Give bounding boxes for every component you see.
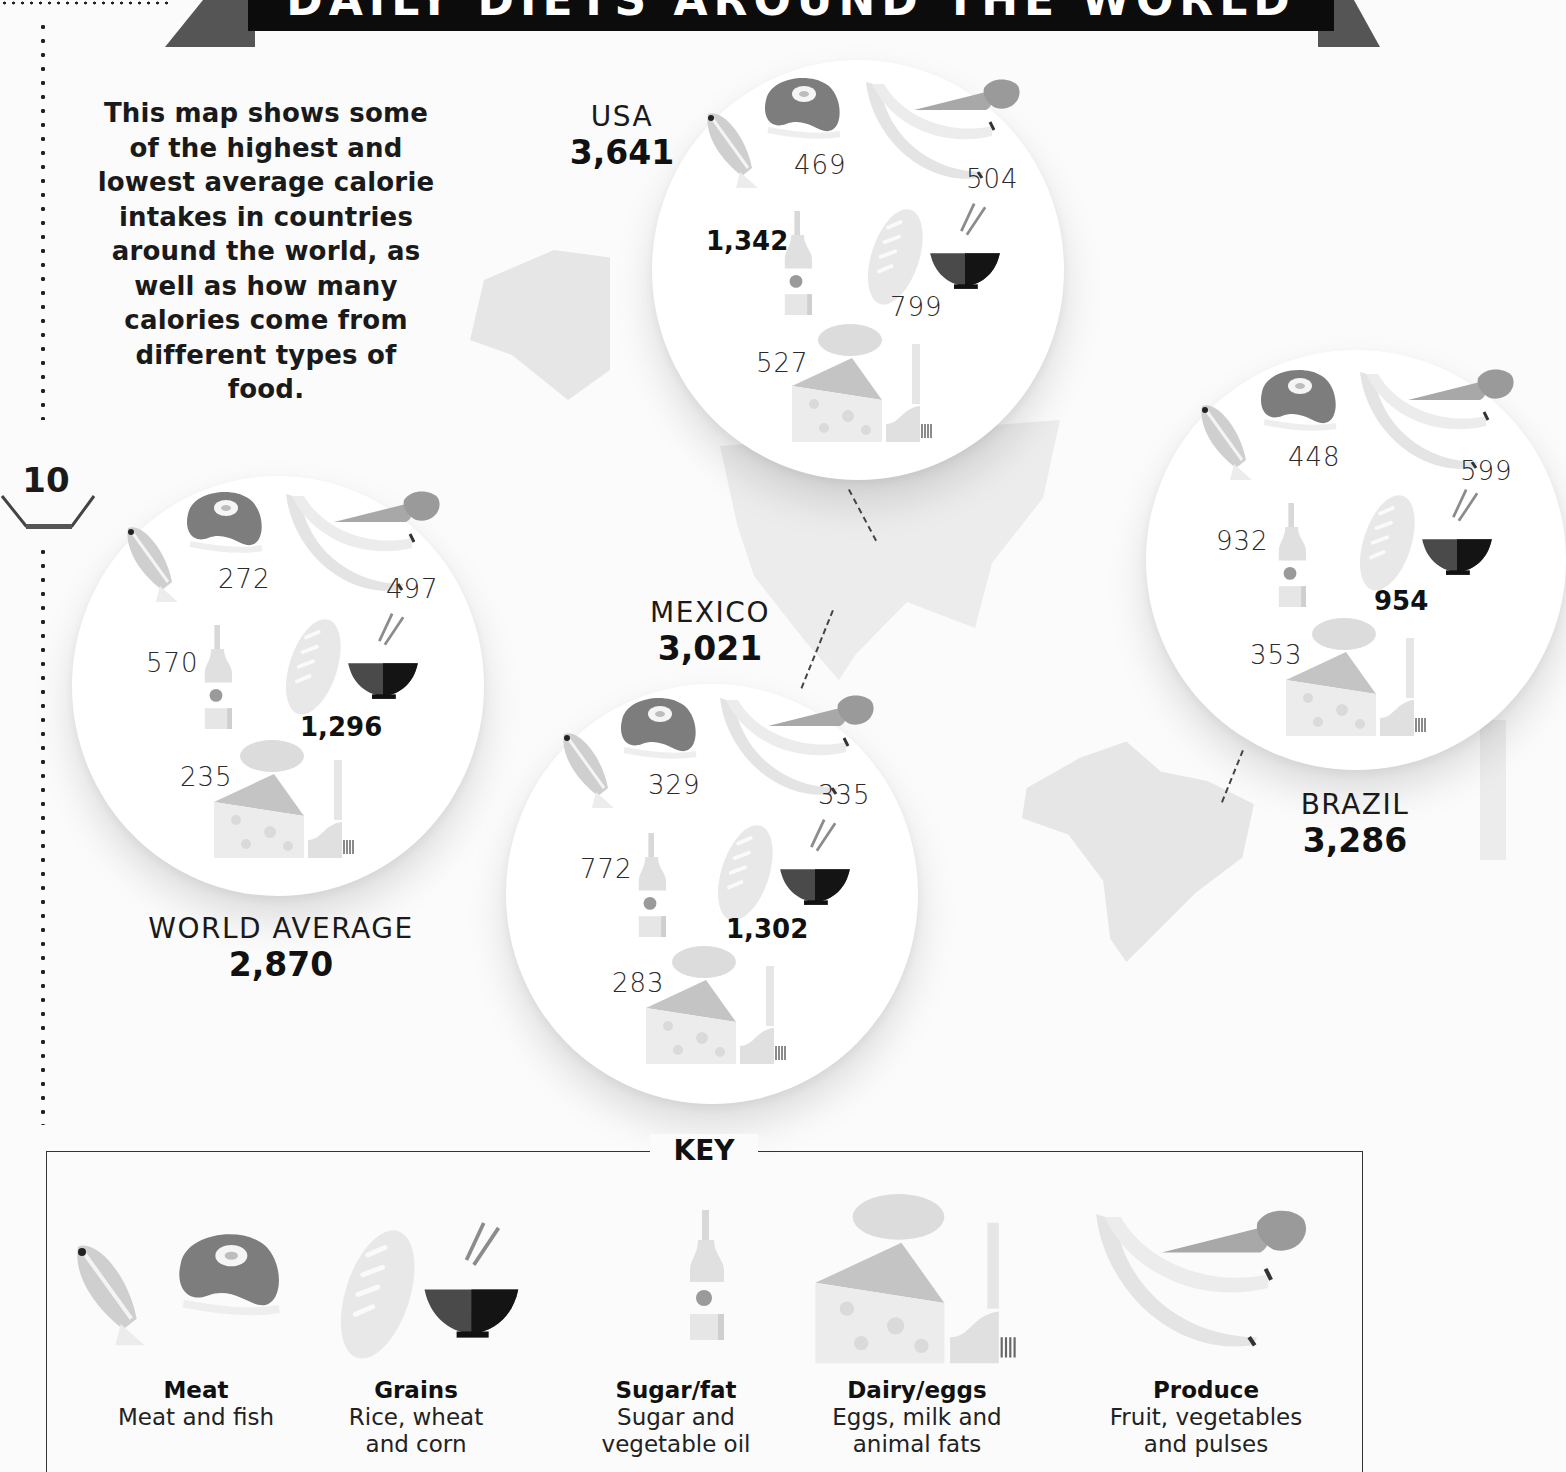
- value-sugar-fat: 932: [1216, 526, 1269, 556]
- fish-icon: [122, 520, 182, 610]
- banner-title: DAILY DIETS AROUND THE WORLD: [248, 0, 1334, 25]
- country-label-mexico: MEXICO 3,021: [630, 596, 790, 668]
- value-meat: 272: [218, 564, 271, 594]
- value-grains: 1,302: [726, 914, 808, 944]
- key-item-name: Grains: [316, 1376, 516, 1404]
- map-alaska: [470, 250, 610, 400]
- value-grains: 954: [1374, 586, 1428, 616]
- value-produce: 599: [1460, 456, 1513, 486]
- country-name: BRAZIL: [1280, 788, 1430, 821]
- key-item-grains: Grains Rice, wheat and corn: [316, 1376, 516, 1458]
- value-meat: 329: [648, 770, 701, 800]
- country-name: USA: [562, 100, 682, 133]
- bread-and-rice-bowl-icon: [1344, 486, 1504, 596]
- steak-icon: [758, 72, 848, 142]
- key-item-desc: Fruit, vegetables: [1096, 1404, 1316, 1431]
- cheese-egg-milk-icon: [644, 944, 794, 1068]
- oil-bottle-icon: [684, 1190, 734, 1360]
- country-label-world-average: WORLD AVERAGE 2,870: [140, 912, 422, 984]
- banana-carrot-icon: [1088, 1206, 1312, 1370]
- cheese-egg-milk-icon: [1284, 616, 1434, 740]
- steak-icon: [170, 1226, 290, 1320]
- value-grains: 1,296: [300, 712, 382, 742]
- country-name: MEXICO: [630, 596, 790, 629]
- value-produce: 497: [386, 574, 439, 604]
- bread-and-rice-bowl-icon: [702, 816, 862, 926]
- country-total: 3,021: [630, 629, 790, 668]
- steak-icon: [180, 486, 270, 556]
- country-total: 2,870: [140, 945, 422, 984]
- dotted-rule-upper: [40, 20, 46, 420]
- steak-icon: [614, 692, 704, 762]
- key-item-produce: Produce Fruit, vegetables and pulses: [1096, 1376, 1316, 1458]
- cheese-egg-milk-icon: [212, 738, 362, 862]
- key-item-meat: Meat Meat and fish: [96, 1376, 296, 1431]
- bread-and-rice-bowl-icon: [320, 1218, 534, 1366]
- value-produce: 504: [966, 164, 1019, 194]
- bread-and-rice-bowl-icon: [270, 610, 430, 720]
- key-item-desc: Rice, wheat: [316, 1404, 516, 1431]
- key-item-name: Dairy/eggs: [812, 1376, 1022, 1404]
- oil-bottle-icon: [1274, 492, 1314, 618]
- value-meat: 448: [1288, 442, 1341, 472]
- oil-bottle-icon: [200, 614, 240, 740]
- oil-bottle-icon: [780, 200, 820, 326]
- key-item-desc: animal fats: [812, 1431, 1022, 1458]
- fish-icon: [1196, 398, 1256, 488]
- oil-bottle-icon: [634, 822, 674, 948]
- dotted-rule-lower: [40, 545, 46, 1125]
- title-banner: DAILY DIETS AROUND THE WORLD: [248, 0, 1334, 31]
- value-dairy-eggs: 353: [1250, 640, 1303, 670]
- key-item-desc: Sugar and: [576, 1404, 776, 1431]
- map-brazil: [1022, 730, 1254, 962]
- value-produce: 335: [818, 780, 871, 810]
- fish-icon: [70, 1236, 150, 1356]
- fish-icon: [558, 726, 618, 816]
- key-item-dairy-eggs: Dairy/eggs Eggs, milk and animal fats: [812, 1376, 1022, 1458]
- country-total: 3,286: [1280, 821, 1430, 860]
- page-number-bracket-icon: [0, 492, 96, 532]
- banner-left-wing: [165, 0, 255, 47]
- value-dairy-eggs: 527: [756, 348, 809, 378]
- key-item-name: Meat: [96, 1376, 296, 1404]
- country-name: WORLD AVERAGE: [140, 912, 422, 945]
- key-item-name: Produce: [1096, 1376, 1316, 1404]
- key-item-desc: Meat and fish: [96, 1404, 296, 1431]
- cheese-egg-milk-icon: [790, 322, 940, 446]
- key-item-sugar-fat: Sugar/fat Sugar and vegetable oil: [576, 1376, 776, 1458]
- value-grains: 799: [890, 292, 943, 322]
- value-dairy-eggs: 235: [180, 762, 233, 792]
- map-south-america-edge: [1480, 720, 1506, 860]
- cheese-egg-milk-icon: [810, 1194, 1030, 1366]
- value-dairy-eggs: 283: [612, 968, 665, 998]
- key-item-desc: vegetable oil: [576, 1431, 776, 1458]
- key-item-desc: and corn: [316, 1431, 516, 1458]
- value-sugar-fat: 570: [146, 648, 199, 678]
- country-label-usa: USA 3,641: [562, 100, 682, 172]
- fish-icon: [702, 106, 762, 196]
- steak-icon: [1254, 364, 1344, 434]
- country-label-brazil: BRAZIL 3,286: [1280, 788, 1430, 860]
- country-total: 3,641: [562, 133, 682, 172]
- key-title: KEY: [650, 1134, 758, 1167]
- key-item-name: Sugar/fat: [576, 1376, 776, 1404]
- value-meat: 469: [794, 150, 847, 180]
- key-item-desc: Eggs, milk and: [812, 1404, 1022, 1431]
- value-sugar-fat: 772: [580, 854, 633, 884]
- key-item-desc: and pulses: [1096, 1431, 1316, 1458]
- intro-text: This map shows some of the highest and l…: [96, 96, 436, 407]
- dotted-rule-horizontal: [0, 1, 170, 5]
- value-sugar-fat: 1,342: [706, 226, 788, 256]
